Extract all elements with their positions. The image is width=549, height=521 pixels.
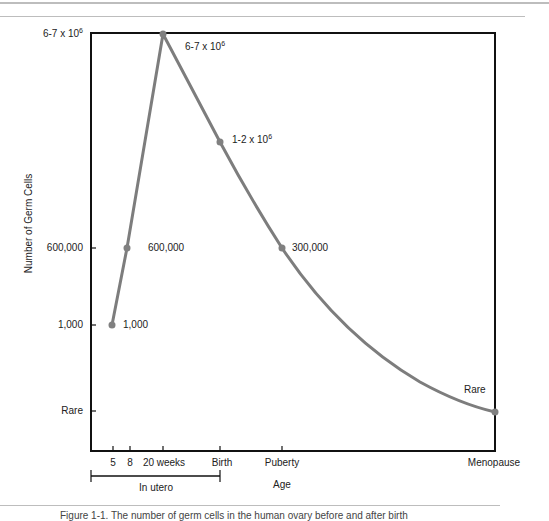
point-label-peak: 6-7 x 106 [185,40,225,52]
germ-cell-curve [112,34,495,412]
y-tick-top-base: 6-7 x 10 [43,28,79,39]
footer-rule [0,505,500,506]
point-8-weeks [124,245,131,252]
birth-base: 1-2 x 10 [232,134,268,145]
y-axis-title: Number of Germ Cells [23,154,34,294]
point-label-1000: 1,000 [123,319,148,330]
y-tick-top-exp: 6 [79,27,83,34]
peak-base: 6-7 x 10 [185,41,221,52]
point-20-weeks [160,31,167,38]
figure-caption: Figure 1-1. The number of germ cells in … [60,510,408,521]
y-tick-600000: 600,000 [23,242,83,253]
point-label-600000: 600,000 [148,242,184,253]
point-menopause [492,409,499,416]
birth-exp: 6 [268,133,272,140]
peak-exp: 6 [221,40,225,47]
x-tick-menopause: Menopause [454,457,534,468]
x-axis-title: Age [242,479,322,490]
y-tick-top: 6-7 x 106 [23,27,83,39]
point-puberty [279,245,286,252]
y-tick-rare: Rare [23,405,83,416]
point-5-weeks [109,322,116,329]
point-label-300000: 300,000 [292,242,328,253]
point-label-birth: 1-2 x 106 [232,133,272,145]
in-utero-label: In utero [116,482,196,493]
y-tick-1000: 1,000 [23,319,83,330]
x-tick-puberty: Puberty [242,457,322,468]
point-label-rare: Rare [464,384,486,395]
point-birth [217,139,224,146]
